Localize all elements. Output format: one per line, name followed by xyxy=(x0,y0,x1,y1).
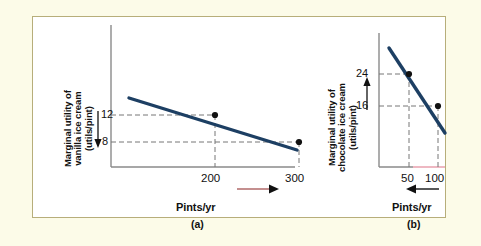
data-point-b-50-24 xyxy=(406,71,412,77)
panel-caption-a: (a) xyxy=(191,218,204,230)
x-axis-title-b: Pints/yr xyxy=(392,202,432,214)
y-tick-label-b-24: 24 xyxy=(356,67,368,79)
data-point-a-200-12 xyxy=(212,112,218,118)
panel-caption-b: (b) xyxy=(407,218,420,230)
chart-panel-a: Marginal utility of vanilla ice cream (u… xyxy=(33,17,301,217)
utility-curve-b xyxy=(389,48,445,133)
y-tick-label-a-12: 12 xyxy=(101,108,113,120)
x-tick-label-a-200: 200 xyxy=(201,172,220,184)
x-tick-label-b-100: 100 xyxy=(425,172,444,184)
chart-panel-b: Marginal utility of chocolate ice cream … xyxy=(301,17,447,217)
plot-area-b xyxy=(301,17,447,219)
x-tick-label-b-50: 50 xyxy=(401,172,414,184)
y-tick-label-a-8: 8 xyxy=(102,135,108,147)
data-point-b-100-16 xyxy=(435,103,441,109)
x-axis-title-a: Pints/yr xyxy=(176,202,216,214)
annotation-arrow-left-b xyxy=(406,185,439,194)
figure-root: Marginal utility of vanilla ice cream (u… xyxy=(0,0,481,246)
y-tick-label-b-16: 16 xyxy=(356,99,368,111)
annotation-arrow-right-a xyxy=(237,185,279,194)
plot-area-a xyxy=(33,17,301,219)
figure-inner-panel: Marginal utility of vanilla ice cream (u… xyxy=(32,16,446,218)
